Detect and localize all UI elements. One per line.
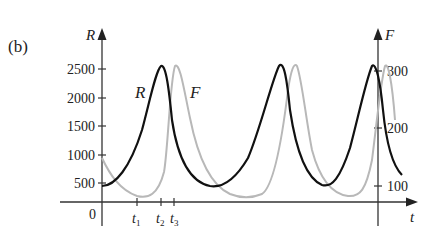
t1-tick-label: t1 — [132, 211, 140, 228]
t3-tick-label: t3 — [170, 211, 179, 228]
right-axis-arrow-icon — [374, 28, 383, 40]
t2-tick-label: t2 — [156, 211, 164, 228]
left-tick-1000: 1000 — [67, 148, 95, 163]
left-tick-2000: 2000 — [67, 91, 95, 106]
left-tick-2500: 2500 — [67, 62, 95, 77]
panel-label: (b) — [8, 37, 28, 56]
x-axis-arrow-icon — [406, 198, 418, 207]
right-tick-200: 200 — [387, 121, 408, 136]
predator-prey-chart: (b) t 0 t1 t2 t3 R 2500 2000 1500 1000 5… — [0, 0, 440, 237]
series-R-line — [102, 65, 402, 186]
origin-label: 0 — [89, 207, 96, 222]
right-tick-100: 100 — [387, 179, 408, 194]
x-axis-title: t — [410, 209, 415, 225]
left-tick-1500: 1500 — [67, 119, 95, 134]
right-axis: F 300 200 100 — [374, 27, 409, 226]
left-axis-arrow-icon — [98, 28, 107, 40]
series-F-label: F — [189, 83, 201, 102]
series-F-line — [102, 65, 395, 197]
x-axis: t 0 t1 t2 t3 — [60, 198, 418, 229]
right-axis-title: F — [384, 27, 395, 43]
left-axis: R 2500 2000 1500 1000 500 — [67, 27, 107, 226]
left-axis-title: R — [85, 27, 95, 43]
left-tick-500: 500 — [74, 176, 95, 191]
series-R-label: R — [134, 83, 146, 102]
